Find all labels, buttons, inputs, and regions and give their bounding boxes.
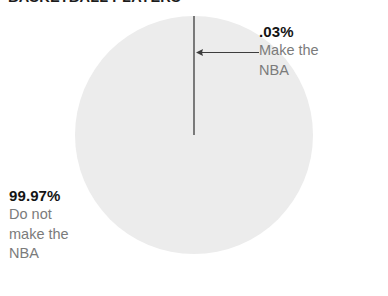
pie-chart-figure: BASKETBALL PLAYERS .03% Make the NBA 99.… xyxy=(0,0,388,296)
page-title: BASKETBALL PLAYERS xyxy=(8,0,181,5)
leader-line-arrow xyxy=(193,44,263,62)
callout-notmake-line2: make the xyxy=(9,225,69,245)
callout-make-line2: NBA xyxy=(259,61,319,81)
callout-make-line1: Make the xyxy=(259,41,319,61)
callout-do-not-make-the-nba: 99.97% Do not make the NBA xyxy=(9,186,69,264)
arrowhead-left-icon xyxy=(196,49,203,56)
callout-notmake-line3: NBA xyxy=(9,244,69,264)
callout-make-the-nba: .03% Make the NBA xyxy=(259,22,319,80)
callout-notmake-line1: Do not xyxy=(9,205,69,225)
callout-make-percent: .03% xyxy=(259,22,319,41)
callout-notmake-percent: 99.97% xyxy=(9,186,69,205)
